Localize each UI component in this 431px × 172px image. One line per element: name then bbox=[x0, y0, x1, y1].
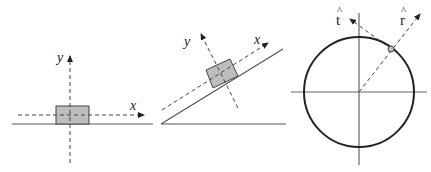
particle-dot bbox=[388, 46, 394, 52]
radial-unit-vector-arrow bbox=[359, 14, 420, 92]
tangential-unit-vector-arrow bbox=[350, 19, 391, 49]
panel-flat-surface: x y bbox=[12, 50, 153, 163]
y-axis-label: y bbox=[55, 50, 64, 65]
x-axis-label: x bbox=[129, 98, 137, 113]
x-axis-label: x bbox=[253, 32, 261, 47]
incline-surface bbox=[161, 49, 283, 124]
r-hat-label: r bbox=[400, 12, 405, 28]
physics-coordinate-diagram: x y x y ^ t ^ r bbox=[0, 0, 431, 172]
panel-circular-motion: ^ t ^ r bbox=[291, 4, 427, 165]
block-on-incline bbox=[206, 59, 238, 88]
panel-inclined-plane: x y bbox=[161, 32, 286, 124]
y-axis-label: y bbox=[182, 34, 191, 49]
